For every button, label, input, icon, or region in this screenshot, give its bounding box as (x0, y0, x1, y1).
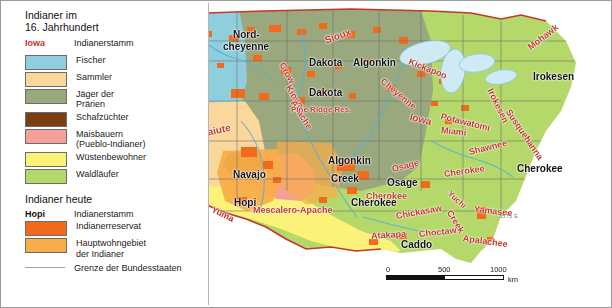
legend-label-mainarea: Hauptwohngebietder Indianer (76, 238, 146, 259)
legend-swatch (25, 112, 67, 127)
legend-label-state-border: Grenze der Bundesstaaten (74, 261, 182, 274)
legend-sample-today: Hopi Indianerstamm (25, 209, 202, 220)
legend-sample-historic: Iowa Indianerstamm (25, 38, 202, 49)
legend-swatch (25, 89, 67, 104)
scale-tick-1000: 1000 (490, 265, 507, 274)
scale-tick-500: 500 (438, 265, 451, 274)
plate-code: 3575 E (499, 213, 518, 219)
legend-item: Wüstenbewohner (25, 152, 202, 167)
legend-item: Maisbauern(Pueblo-Indianer) (25, 129, 202, 150)
legend-item: Waldläufer (25, 169, 202, 184)
legend-label: Schafzüchter (76, 112, 129, 123)
scale-unit: km (508, 275, 518, 284)
legend-swatch-mainarea (25, 238, 67, 253)
legend-label: Waldläufer (76, 169, 119, 180)
legend-label: Fischer (76, 55, 106, 66)
legend-title-line1: Indianer im (25, 9, 202, 21)
legend-item-state-border: Grenze der Bundesstaaten (25, 261, 202, 274)
legend-swatch (25, 72, 67, 87)
legend-swatch-state-border (25, 267, 65, 268)
legend-item: Sammler (25, 72, 202, 87)
legend-swatch (25, 152, 67, 167)
legend-swatch (25, 129, 67, 144)
legend-title-line2: 16. Jahrhundert (25, 21, 202, 33)
legend-swatch (25, 169, 67, 184)
legend-sample-historic-label: Indianerstamm (74, 38, 134, 49)
legend-swatch (25, 55, 67, 70)
legend-section-today: Indianer heute (25, 193, 202, 205)
legend-culture-items: FischerSammlerJäger derPrärienSchafzücht… (25, 55, 202, 184)
scale-bar: 0 500 1000 km (386, 265, 526, 280)
legend-item: Fischer (25, 55, 202, 70)
legend-item: Schafzüchter (25, 112, 202, 127)
legend-item: Jäger derPrärien (25, 89, 202, 110)
legend-item-reservation: Indianerreservat (25, 221, 202, 236)
legend-label: Wüstenbewohner (76, 152, 146, 163)
legend-panel: Indianer im 16. Jahrhundert Iowa Indiane… (3, 3, 209, 305)
legend-item-mainarea: Hauptwohngebietder Indianer (25, 238, 202, 259)
legend-label-reservation: Indianerreservat (76, 221, 141, 232)
legend-label: Jäger derPrärien (76, 89, 114, 110)
legend-swatch-reservation (25, 221, 67, 236)
legend-label: Maisbauern(Pueblo-Indianer) (76, 129, 146, 150)
legend-sample-historic-name: Iowa (25, 38, 65, 48)
legend-title: Indianer im 16. Jahrhundert (25, 9, 202, 33)
map-screenshot: ChinookPaiuteCrowKiowa-ApacheSiouxPine R… (0, 0, 612, 308)
legend-sample-today-label: Indianerstamm (74, 209, 134, 220)
scale-bar-track (386, 275, 504, 280)
legend-label: Sammler (76, 72, 112, 83)
scale-tick-0: 0 (386, 265, 390, 274)
legend-sample-today-name: Hopi (25, 209, 65, 219)
